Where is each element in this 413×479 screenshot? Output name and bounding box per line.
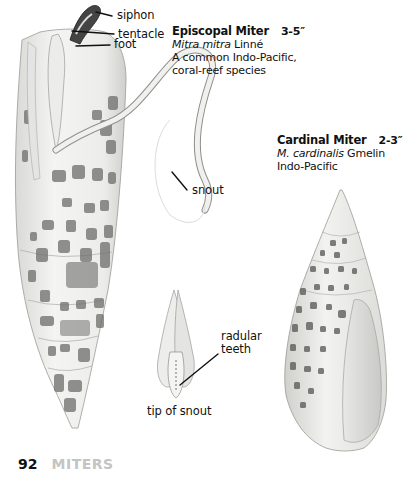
caption-episcopal-miter: Episcopal Miter3-5″ Mitra mitra Linné A …: [172, 25, 305, 77]
size-range: 2-3″: [379, 134, 403, 147]
species-heading: Cardinal Miter2-3″: [277, 134, 403, 147]
cardinal-miter-illustration: [285, 190, 387, 451]
scientific-name-italic: Mitra mitra: [172, 38, 231, 51]
species-heading: Episcopal Miter3-5″: [172, 25, 305, 38]
page-number: 92: [18, 456, 37, 472]
size-range: 3-5″: [281, 25, 305, 38]
label-snout: snout: [192, 184, 224, 197]
label-siphon: siphon: [117, 9, 155, 22]
tip-of-snout-illustration: [157, 290, 194, 398]
common-name: Episcopal Miter: [172, 24, 269, 38]
scientific-name-italic: cardinalis: [293, 147, 344, 160]
description-line: coral-reef species: [172, 64, 305, 77]
description-line: Indo-Pacific: [277, 160, 403, 173]
scientific-name: Mitra mitra Linné: [172, 38, 305, 51]
caption-cardinal-miter: Cardinal Miter2-3″ M. cardinalis Gmelin …: [277, 134, 403, 173]
scientific-author: Linné: [231, 38, 263, 51]
scientific-name: M. cardinalis Gmelin: [277, 147, 403, 160]
scientific-author: Gmelin: [344, 147, 385, 160]
label-teeth: teeth: [221, 343, 251, 356]
scientific-prefix: M.: [277, 147, 293, 160]
label-foot: foot: [114, 38, 136, 51]
description-line: A common Indo-Pacific,: [172, 51, 305, 64]
common-name: Cardinal Miter: [277, 133, 367, 147]
label-tip-of-snout: tip of snout: [147, 405, 211, 418]
page-footer: 92MITERS: [18, 456, 114, 472]
section-title: MITERS: [51, 456, 113, 472]
